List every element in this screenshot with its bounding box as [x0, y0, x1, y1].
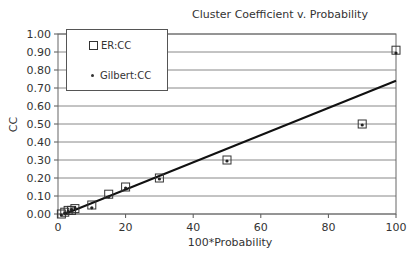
gilbert-data-point	[107, 195, 110, 198]
gilbert-data-point	[158, 177, 161, 180]
x-tick-label: 80	[321, 221, 335, 234]
y-tick-label: 1.00	[27, 28, 52, 41]
square-marker-icon	[89, 41, 98, 50]
y-tick-label: 0.10	[27, 190, 52, 203]
y-axis-label: CC	[7, 117, 20, 132]
gilbert-data-point	[124, 186, 127, 189]
trend-line	[65, 81, 396, 214]
gilbert-data-point	[73, 206, 76, 209]
gilbert-data-point	[361, 123, 364, 126]
gilbert-data-point	[394, 51, 397, 54]
legend-item-er: ER:CC	[89, 40, 131, 51]
x-tick-label: 0	[55, 221, 62, 234]
x-axis-label: 100*Probability	[160, 236, 300, 249]
x-tick-label: 40	[186, 221, 200, 234]
gilbert-data-point	[60, 213, 63, 216]
legend: ER:CC Gilbert:CC	[66, 29, 168, 91]
gilbert-data-point	[90, 206, 93, 209]
x-tick-label: 20	[119, 221, 133, 234]
y-tick-label: 0.80	[27, 64, 52, 77]
y-tick-label: 0.50	[27, 118, 52, 131]
scatter-chart: 0.000.100.200.300.400.500.600.700.800.90…	[0, 0, 418, 259]
y-tick-label: 0.70	[27, 82, 52, 95]
y-tick-label: 0.40	[27, 136, 52, 149]
gilbert-data-point	[63, 212, 66, 215]
x-tick-label: 60	[254, 221, 268, 234]
dot-marker-icon	[91, 74, 94, 77]
legend-item-gilbert: Gilbert:CC	[89, 70, 151, 81]
y-tick-label: 0.60	[27, 100, 52, 113]
gilbert-data-point	[70, 208, 73, 211]
gilbert-data-point	[67, 210, 70, 213]
y-tick-label: 0.20	[27, 172, 52, 185]
y-tick-label: 0.30	[27, 154, 52, 167]
chart-title: Cluster Coefficient v. Probability	[150, 8, 410, 21]
y-tick-label: 0.90	[27, 46, 52, 59]
x-tick-label: 100	[386, 221, 407, 234]
y-tick-label: 0.00	[27, 208, 52, 221]
gilbert-data-point	[225, 159, 228, 162]
